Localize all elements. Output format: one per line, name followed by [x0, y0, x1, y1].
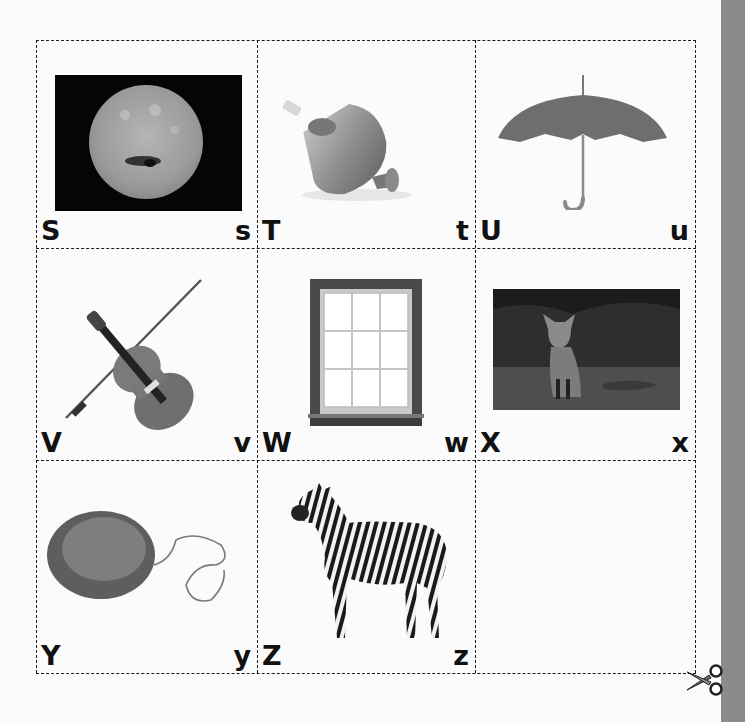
uppercase-letter: U — [480, 217, 502, 244]
uppercase-letter: Y — [41, 642, 61, 669]
uppercase-letter: Z — [262, 642, 282, 669]
fox-picture — [493, 289, 680, 410]
lowercase-letter: w — [444, 429, 469, 456]
cut-line-right — [695, 40, 696, 673]
uppercase-letter: V — [41, 429, 62, 456]
zebra-picture — [287, 478, 457, 653]
uppercase-letter: S — [41, 217, 60, 244]
card-empty — [475, 460, 695, 673]
spinning-top-picture — [277, 95, 417, 205]
sun-picture — [55, 75, 242, 211]
yo-yo-picture — [46, 505, 251, 625]
uppercase-letter: W — [262, 429, 292, 456]
card-x: X x — [475, 248, 695, 460]
violin-picture — [61, 276, 241, 436]
page-edge-bar — [721, 0, 745, 722]
card-v: V v — [36, 248, 257, 460]
card-u: U u — [475, 40, 695, 248]
lowercase-letter: z — [453, 642, 469, 669]
letter-card-grid: S s T t U u — [36, 40, 696, 673]
card-z: Z z — [257, 460, 475, 673]
umbrella-picture — [495, 70, 670, 210]
card-t: T t — [257, 40, 475, 248]
lowercase-letter: u — [670, 217, 689, 244]
card-y: Y y — [36, 460, 257, 673]
uppercase-letter: X — [480, 429, 501, 456]
lowercase-letter: t — [456, 217, 469, 244]
cut-line-bottom — [36, 673, 696, 674]
lowercase-letter: s — [235, 217, 251, 244]
card-s: S s — [36, 40, 257, 248]
lowercase-letter: x — [672, 429, 689, 456]
window-picture — [308, 279, 424, 427]
lowercase-letter: y — [233, 642, 251, 669]
scissors-icon — [685, 664, 725, 696]
lowercase-letter: v — [233, 429, 251, 456]
card-w: W w — [257, 248, 475, 460]
uppercase-letter: T — [262, 217, 280, 244]
